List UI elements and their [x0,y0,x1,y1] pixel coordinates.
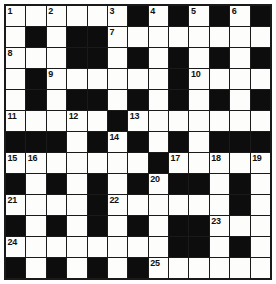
crossword-cell[interactable] [108,90,127,110]
crossword-cell[interactable] [149,237,168,257]
crossword-cell[interactable] [47,48,66,68]
crossword-cell[interactable] [67,69,86,89]
crossword-cell[interactable] [88,111,107,131]
crossword-cell[interactable] [88,153,107,173]
crossword-cell[interactable]: 7 [108,27,127,47]
crossword-cell[interactable] [230,153,249,173]
crossword-cell[interactable]: 25 [149,258,168,278]
crossword-cell[interactable] [26,48,45,68]
crossword-cell[interactable] [251,258,270,278]
crossword-cell[interactable] [26,258,45,278]
crossword-cell[interactable] [149,90,168,110]
crossword-cell[interactable] [251,111,270,131]
crossword-cell[interactable]: 14 [108,132,127,152]
crossword-cell[interactable] [230,27,249,47]
crossword-cell[interactable] [230,216,249,236]
crossword-cell[interactable] [108,237,127,257]
crossword-cell[interactable] [67,195,86,215]
crossword-cell[interactable]: 24 [6,237,25,257]
crossword-cell[interactable]: 16 [26,153,45,173]
crossword-cell[interactable] [47,237,66,257]
crossword-cell[interactable]: 13 [128,111,147,131]
crossword-cell[interactable] [251,216,270,236]
crossword-cell[interactable] [108,153,127,173]
crossword-cell[interactable] [149,69,168,89]
crossword-cell[interactable] [251,195,270,215]
crossword-cell[interactable] [67,153,86,173]
crossword-grid[interactable]: 1234567891011121314151617181920212223242… [4,4,272,281]
crossword-cell[interactable] [88,237,107,257]
crossword-cell[interactable] [47,27,66,47]
crossword-cell[interactable]: 23 [210,216,229,236]
crossword-cell[interactable] [47,90,66,110]
crossword-cell[interactable] [230,48,249,68]
crossword-cell[interactable]: 2 [47,6,66,26]
crossword-cell[interactable] [189,195,208,215]
crossword-cell[interactable] [67,174,86,194]
crossword-cell[interactable] [67,132,86,152]
crossword-cell[interactable] [6,27,25,47]
crossword-cell[interactable] [88,69,107,89]
crossword-cell[interactable] [251,237,270,257]
crossword-cell[interactable] [67,258,86,278]
crossword-cell[interactable]: 12 [67,111,86,131]
crossword-cell[interactable]: 17 [169,153,188,173]
crossword-cell[interactable]: 5 [189,6,208,26]
crossword-cell[interactable] [47,153,66,173]
crossword-cell[interactable]: 1 [6,6,25,26]
crossword-cell[interactable]: 22 [108,195,127,215]
crossword-cell[interactable] [210,174,229,194]
crossword-cell[interactable] [128,237,147,257]
crossword-cell[interactable]: 11 [6,111,25,131]
crossword-cell[interactable] [169,195,188,215]
crossword-cell[interactable] [210,27,229,47]
crossword-cell[interactable]: 19 [251,153,270,173]
crossword-cell[interactable] [189,48,208,68]
crossword-cell[interactable] [169,111,188,131]
crossword-cell[interactable] [230,69,249,89]
crossword-cell[interactable] [128,153,147,173]
crossword-cell[interactable] [6,90,25,110]
crossword-cell[interactable] [149,111,168,131]
crossword-cell[interactable] [189,153,208,173]
crossword-cell[interactable] [6,69,25,89]
crossword-cell[interactable]: 18 [210,153,229,173]
crossword-cell[interactable] [210,195,229,215]
crossword-cell[interactable]: 8 [6,48,25,68]
crossword-cell[interactable]: 9 [47,69,66,89]
crossword-cell[interactable] [251,69,270,89]
crossword-cell[interactable] [47,195,66,215]
crossword-cell[interactable] [230,258,249,278]
crossword-cell[interactable] [26,216,45,236]
crossword-cell[interactable] [189,258,208,278]
crossword-cell[interactable] [210,237,229,257]
crossword-cell[interactable] [88,6,107,26]
crossword-cell[interactable] [149,48,168,68]
crossword-cell[interactable] [189,132,208,152]
crossword-cell[interactable] [169,27,188,47]
crossword-cell[interactable] [251,174,270,194]
crossword-cell[interactable] [230,111,249,131]
crossword-cell[interactable]: 10 [189,69,208,89]
crossword-cell[interactable] [189,27,208,47]
crossword-cell[interactable] [26,6,45,26]
crossword-cell[interactable] [67,6,86,26]
crossword-cell[interactable] [47,111,66,131]
crossword-cell[interactable] [149,195,168,215]
crossword-cell[interactable] [108,69,127,89]
crossword-cell[interactable] [26,174,45,194]
crossword-cell[interactable] [189,90,208,110]
crossword-cell[interactable] [210,258,229,278]
crossword-cell[interactable] [251,27,270,47]
crossword-cell[interactable] [149,216,168,236]
crossword-cell[interactable]: 3 [108,6,127,26]
crossword-cell[interactable] [128,27,147,47]
crossword-cell[interactable] [128,69,147,89]
crossword-cell[interactable] [189,111,208,131]
crossword-cell[interactable] [149,132,168,152]
crossword-cell[interactable] [67,237,86,257]
crossword-cell[interactable]: 6 [230,6,249,26]
crossword-cell[interactable] [108,48,127,68]
crossword-cell[interactable]: 20 [149,174,168,194]
crossword-cell[interactable] [169,258,188,278]
